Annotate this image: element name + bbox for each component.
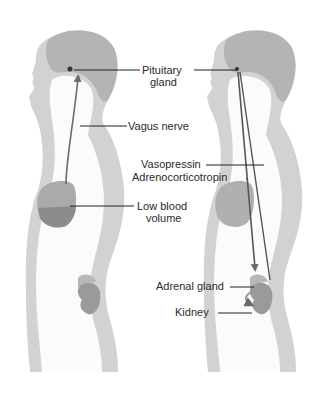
label-low-blood-line2: volume [146, 212, 181, 224]
label-vagus-nerve: Vagus nerve [128, 120, 189, 132]
label-adrenal-gland: Adrenal gland [156, 280, 224, 292]
left-pituitary-dot [68, 67, 73, 72]
label-adrenocorticotropin: Adrenocorticotropin [132, 171, 227, 183]
left-heart-organ [37, 181, 76, 228]
label-low-blood-line1: Low blood [137, 200, 187, 212]
label-vasopressin: Vasopressin [141, 158, 201, 170]
hormone-pathway-diagram: Pituitary gland Vagus nerve Low blood vo… [0, 0, 319, 400]
label-pituitary-gland-line1: Pituitary [142, 64, 182, 76]
label-pituitary-gland-line2: gland [150, 76, 177, 88]
label-kidney: Kidney [175, 306, 209, 318]
